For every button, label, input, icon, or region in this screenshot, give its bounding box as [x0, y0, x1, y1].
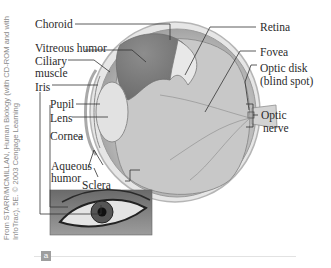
image-credit: From STARR/MCMILLAN, Human Biology (with…: [2, 10, 20, 240]
label-sclera: Sclera: [82, 179, 111, 191]
label-ciliary-muscle-line2: muscle: [35, 67, 68, 79]
label-optic-nerve-line1: Optic: [261, 109, 287, 121]
label-pupil: Pupil: [50, 98, 74, 110]
label-lens: Lens: [50, 112, 72, 124]
eyeball: [86, 22, 278, 202]
label-optic-disk-line1: Optic disk: [260, 62, 308, 74]
label-retina: Retina: [260, 21, 290, 33]
label-optic-disk-line2: (blind spot): [260, 75, 313, 87]
label-iris: Iris: [35, 81, 50, 93]
panel-label-badge: a: [41, 251, 51, 261]
label-choroid: Choroid: [35, 18, 73, 30]
label-optic-nerve-line2: nerve: [263, 122, 289, 134]
label-aqueous-humor-line1: Aqueous: [51, 160, 92, 172]
label-cornea: Cornea: [50, 130, 83, 142]
label-fovea: Fovea: [260, 46, 288, 58]
caption-rule: [34, 256, 296, 257]
label-vitreous-humor: Vitreous humor: [35, 42, 107, 54]
label-aqueous-humor-line2: humor: [51, 172, 81, 184]
label-ciliary-muscle-line1: Ciliary: [35, 55, 67, 67]
